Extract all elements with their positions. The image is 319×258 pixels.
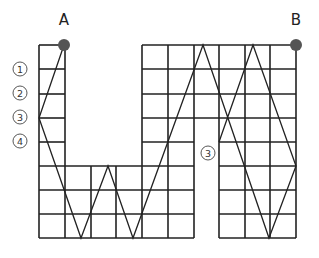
point-b-dot [290, 39, 302, 51]
row-marker-3-right-text: 3 [205, 148, 211, 159]
row-marker-3: 3 [13, 110, 27, 124]
row-marker-4-text: 4 [17, 136, 23, 147]
grid-path-diagram: A B 1 2 3 4 3 [0, 0, 319, 258]
row-marker-2-text: 2 [17, 88, 23, 99]
row-marker-1-text: 1 [17, 64, 23, 75]
row-marker-4: 4 [13, 134, 27, 148]
row-marker-3-text: 3 [17, 112, 23, 123]
point-a-dot [58, 39, 70, 51]
grid-bottom-right-block [219, 166, 296, 238]
row-marker-2: 2 [13, 86, 27, 100]
point-a-label: A [59, 11, 70, 29]
grid-left-column [39, 45, 65, 238]
point-b-label: B [291, 11, 301, 29]
row-marker-1: 1 [13, 62, 27, 76]
row-marker-3-right: 3 [201, 146, 215, 160]
